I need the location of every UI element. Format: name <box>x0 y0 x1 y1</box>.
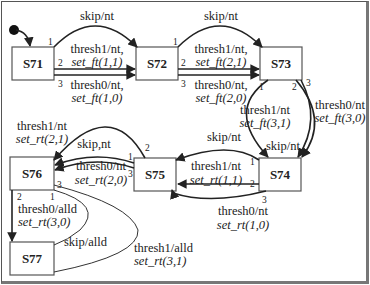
edge-S74-S75-thresh0 <box>172 190 266 199</box>
port-label: 1 <box>173 37 178 47</box>
port-label: 3 <box>181 79 186 89</box>
state-S73[interactable]: S73 <box>260 47 302 80</box>
transition-action: set_ft(2,0) <box>195 91 246 105</box>
transition-label: thresh1/alld <box>134 241 194 255</box>
port-label: 1 <box>128 152 133 162</box>
port-label: 1 <box>48 37 53 47</box>
port-label: 3 <box>58 79 63 89</box>
port-label: 3 <box>128 169 133 179</box>
transition-label: thresh1/nt, <box>194 42 247 56</box>
port-label: 1 <box>250 157 255 167</box>
transition-label: thresh0/nt <box>315 98 366 112</box>
transition-label: thresh1/nt <box>191 159 242 173</box>
transition-action: set_ft(3,1) <box>239 116 290 130</box>
port-label: 2 <box>292 82 297 92</box>
state-label: S72 <box>147 56 167 71</box>
port-label: 3 <box>306 78 311 88</box>
transition-action: set_rt(2,0) <box>75 173 127 187</box>
transition-label: thresh1/nt, <box>70 42 123 56</box>
transition-label: skip/nt <box>266 139 301 153</box>
port-label: 2 <box>181 58 186 68</box>
port-label: 2 <box>250 179 255 189</box>
transition-label: thresh1/nt <box>240 103 291 117</box>
port-label: 2 <box>58 58 63 68</box>
state-S77[interactable]: S77 <box>10 242 54 275</box>
transition-action: set_ft(3,0) <box>314 111 365 125</box>
state-S71[interactable]: S71 <box>12 47 54 80</box>
transition-label: skip/nt <box>204 9 239 23</box>
transition-label: thresh0/nt <box>76 159 127 173</box>
state-S74[interactable]: S74 <box>259 158 301 191</box>
port-label: 1 <box>50 192 55 202</box>
port-label: 3 <box>57 180 62 190</box>
transition-action: set_rt(3,0) <box>18 215 70 229</box>
transition-action: set_ft(1,1) <box>71 55 122 69</box>
port-label: 2 <box>17 192 22 202</box>
transition-action: set_rt(3,1) <box>134 254 186 268</box>
transition-action: set_ft(2,1) <box>195 55 246 69</box>
transition-action: set_rt(1,1) <box>190 173 242 187</box>
state-label: S71 <box>23 56 43 71</box>
state-label: S73 <box>271 56 292 71</box>
transition-action: set_rt(1,0) <box>217 218 269 232</box>
state-S76[interactable]: S76 <box>10 157 54 190</box>
state-diagram: S71 S72 S73 S74 S75 S76 S77 1 2 3 skip/n… <box>0 0 370 285</box>
state-S75[interactable]: S75 <box>134 158 176 191</box>
state-label: S77 <box>22 251 43 266</box>
state-S72[interactable]: S72 <box>136 47 178 80</box>
state-label: S74 <box>270 167 291 182</box>
transition-label: thresh0/nt <box>218 204 269 218</box>
transition-label: thresh1/nt <box>17 119 68 133</box>
transition-label: thresh0/alld <box>18 202 78 216</box>
port-label: 1 <box>259 82 264 92</box>
transition-label: skip/nt <box>207 130 242 144</box>
transition-action: set_rt(2,1) <box>16 132 68 146</box>
transition-action: set_ft(1,0) <box>71 91 122 105</box>
transition-label: skip/alld <box>64 235 108 249</box>
transition-label: thresh0/nt, <box>70 78 123 92</box>
state-label: S75 <box>145 167 166 182</box>
transition-label: thresh0/nt, <box>194 78 247 92</box>
transition-label: skip/nt <box>80 9 115 23</box>
port-label: 2 <box>145 143 150 153</box>
transition-label: skip,nt <box>77 137 111 151</box>
state-label: S76 <box>22 166 43 181</box>
